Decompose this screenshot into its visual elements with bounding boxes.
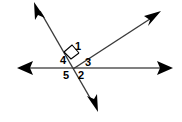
- geometry-figure: 1 4 3 5 2: [0, 0, 182, 122]
- upper-right-arrowhead: [144, 11, 161, 26]
- angle-label-5: 5: [60, 70, 72, 81]
- angle-label-1: 1: [72, 41, 84, 52]
- angle-label-3: 3: [82, 57, 94, 68]
- angle-label-2: 2: [75, 70, 87, 81]
- angle-label-4: 4: [57, 55, 69, 66]
